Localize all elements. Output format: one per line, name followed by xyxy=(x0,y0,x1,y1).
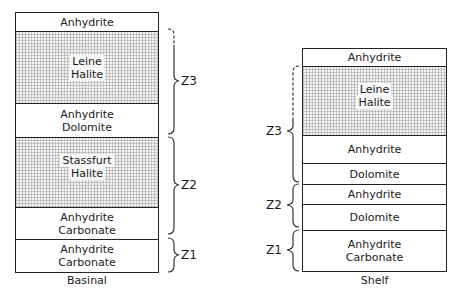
basinal-zone-z3-label: Z3 xyxy=(181,74,197,88)
zone-braces xyxy=(0,0,462,296)
basinal-z2-brace xyxy=(168,137,179,234)
basinal-z1-brace xyxy=(168,238,179,272)
shelf-zone-z2-label: Z2 xyxy=(266,198,282,212)
shelf-zone-z3-label: Z3 xyxy=(266,124,282,138)
basinal-zone-z2-label: Z2 xyxy=(181,178,197,192)
shelf-z3-brace xyxy=(293,66,299,120)
basinal-zone-z1-label: Z1 xyxy=(181,248,197,262)
shelf-z1-brace xyxy=(287,230,299,271)
shelf-z2-brace xyxy=(287,184,299,227)
shelf-zone-z1-label: Z1 xyxy=(266,243,282,257)
basinal-z3-brace xyxy=(168,29,174,45)
